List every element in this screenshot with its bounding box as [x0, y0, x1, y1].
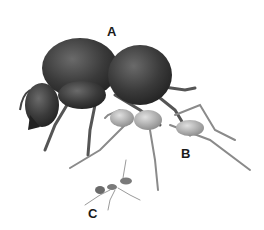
ant-c: [85, 160, 140, 210]
ant-b: [70, 105, 250, 190]
ant-illustration: A B C: [0, 0, 264, 230]
ants-drawing: [0, 0, 264, 230]
ant-a: [20, 38, 195, 155]
label-c: C: [88, 207, 97, 220]
label-b: B: [181, 147, 190, 160]
label-a: A: [107, 25, 116, 38]
